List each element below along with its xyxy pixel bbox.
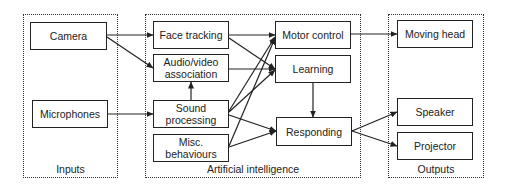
face-tracking-node: Face tracking bbox=[153, 21, 229, 49]
projector-node: Projector bbox=[397, 132, 473, 160]
sound-processing-node: Sound processing bbox=[153, 100, 229, 128]
learning-node: Learning bbox=[275, 55, 351, 83]
misc-behaviours-node: Misc. behaviours bbox=[153, 134, 229, 162]
inputs-group-label: Inputs bbox=[24, 163, 117, 175]
microphones-node: Microphones bbox=[32, 100, 108, 128]
ai-group-label: Artificial intelligence bbox=[146, 163, 360, 175]
camera-node: Camera bbox=[30, 22, 107, 50]
speaker-node: Speaker bbox=[397, 98, 473, 126]
motor-control-node: Motor control bbox=[275, 21, 351, 49]
responding-node: Responding bbox=[276, 117, 352, 146]
audio-video-association-node: Audio/video association bbox=[153, 54, 229, 82]
moving-head-node: Moving head bbox=[397, 20, 473, 48]
outputs-group-label: Outputs bbox=[389, 163, 483, 175]
diagram-canvas: Inputs Artificial intelligence Outputs C… bbox=[0, 0, 505, 190]
